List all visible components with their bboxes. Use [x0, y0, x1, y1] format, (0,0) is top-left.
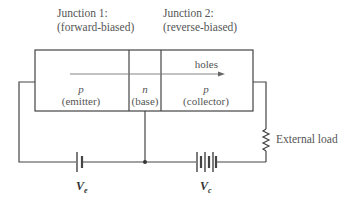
junction-2-bias: (reverse-biased)	[163, 21, 237, 34]
emitter-type: p	[77, 83, 84, 95]
junction-1-bias: (forward-biased)	[57, 21, 134, 34]
collector-wire-top	[253, 82, 266, 129]
emitter-wire	[19, 82, 76, 162]
base-label: (base)	[132, 95, 159, 108]
battery-vc-icon	[197, 152, 216, 172]
vc-label: Vc	[200, 179, 212, 195]
resistor-icon	[263, 129, 269, 151]
external-load-label: External load	[276, 133, 338, 145]
base-type: n	[142, 83, 148, 95]
collector-type: p	[202, 83, 209, 95]
pnp-transistor-diagram: Junction 1: (forward-biased) Junction 2:…	[0, 0, 355, 202]
holes-label: holes	[195, 58, 218, 70]
battery-ve-icon	[77, 152, 82, 172]
junction-1-label: Junction 1: (forward-biased)	[57, 7, 134, 34]
junction-2-title: Junction 2:	[163, 7, 214, 19]
emitter-label: (emitter)	[62, 95, 101, 108]
holes-arrow	[70, 72, 225, 77]
ve-label: Ve	[76, 179, 88, 195]
junction-1-title: Junction 1:	[57, 7, 108, 19]
collector-label: (collector)	[183, 95, 229, 108]
junction-2-label: Junction 2: (reverse-biased)	[163, 7, 237, 34]
